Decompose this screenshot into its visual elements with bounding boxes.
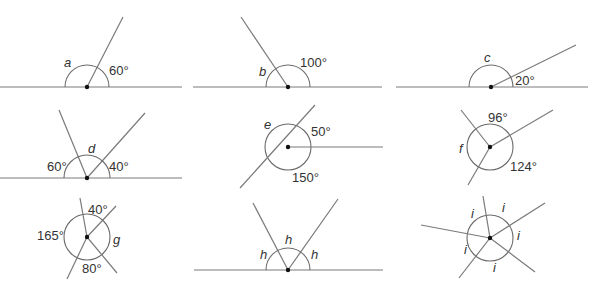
label-i-2: i bbox=[502, 200, 506, 215]
label-c: c bbox=[484, 50, 491, 65]
diagram-c: c 20° bbox=[396, 45, 588, 89]
diagram-d: d 60° 40° bbox=[0, 110, 182, 180]
vertex-dot bbox=[286, 268, 290, 272]
label-g: g bbox=[113, 232, 121, 247]
label-h-left: h bbox=[260, 247, 267, 262]
vertex-dot bbox=[85, 85, 89, 89]
ray-left bbox=[253, 203, 288, 270]
vertex-dot bbox=[286, 85, 290, 89]
label-150: 150° bbox=[292, 170, 319, 185]
diagram-a: a 60° bbox=[0, 17, 182, 89]
label-60: 60° bbox=[109, 63, 129, 78]
label-96: 96° bbox=[488, 110, 508, 125]
label-d: d bbox=[88, 141, 96, 156]
vertex-dot bbox=[85, 235, 89, 239]
label-b: b bbox=[259, 64, 266, 79]
label-i-4: i bbox=[493, 260, 497, 275]
label-165: 165° bbox=[37, 228, 64, 243]
ray-up bbox=[483, 196, 490, 238]
vertex-dot bbox=[85, 176, 89, 180]
angle-diagrams-canvas: a 60° b 100° c 20° d 60° 40° e 50° bbox=[0, 0, 604, 288]
label-h-right: h bbox=[311, 247, 318, 262]
diagram-h: h h h bbox=[194, 199, 383, 272]
label-80: 80° bbox=[82, 261, 102, 276]
vertex-dot bbox=[489, 85, 493, 89]
label-40: 40° bbox=[109, 159, 129, 174]
ray-up bbox=[80, 198, 87, 237]
ray-left bbox=[421, 225, 490, 238]
label-e: e bbox=[264, 117, 271, 132]
vertex-dot bbox=[286, 145, 290, 149]
diagram-g: 40° 165° g 80° bbox=[37, 198, 121, 279]
label-a: a bbox=[64, 55, 71, 70]
label-20: 20° bbox=[515, 73, 535, 88]
diagram-i: i i i i i bbox=[421, 196, 545, 278]
angle-arc bbox=[65, 65, 109, 87]
label-f: f bbox=[459, 141, 464, 156]
ray-upper-left bbox=[461, 110, 490, 147]
label-i-1: i bbox=[471, 206, 475, 221]
angle-arc bbox=[64, 155, 110, 178]
angle-arc bbox=[469, 65, 513, 87]
vertex-dot bbox=[488, 145, 492, 149]
diagram-e: e 50° 150° bbox=[240, 105, 383, 188]
label-124: 124° bbox=[510, 159, 537, 174]
label-100: 100° bbox=[300, 55, 327, 70]
angle-arc bbox=[266, 248, 310, 270]
diagram-f: 96° f 124° bbox=[459, 110, 553, 185]
label-50: 50° bbox=[311, 124, 331, 139]
label-h-middle: h bbox=[285, 232, 292, 247]
diagram-b: b 100° bbox=[193, 17, 382, 89]
ray-lower-left bbox=[468, 147, 490, 185]
label-60: 60° bbox=[47, 159, 67, 174]
label-40: 40° bbox=[88, 202, 108, 217]
vertex-dot bbox=[488, 236, 492, 240]
label-i-3: i bbox=[517, 228, 521, 243]
